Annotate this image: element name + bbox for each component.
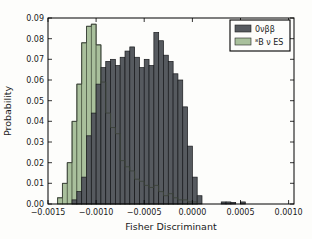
y-tick-label: 0.08 — [26, 35, 44, 44]
histogram-bar — [154, 32, 159, 204]
histogram-bar — [163, 55, 168, 204]
histogram-bar — [183, 107, 188, 204]
x-tick-label: −0.0005 — [127, 208, 162, 217]
histogram-bar — [77, 84, 82, 204]
legend-swatch-0nubb — [235, 25, 251, 32]
legend-label-8b-nu-es: ⁸B ν ES — [255, 38, 283, 47]
y-tick-label: 0.02 — [26, 159, 44, 168]
histogram-bar — [139, 68, 144, 204]
histogram-plot: −0.0015−0.0010−0.00050.00000.00050.00100… — [0, 0, 312, 239]
histogram-bar — [77, 192, 82, 204]
histogram-bar — [72, 121, 77, 204]
histogram-bar — [67, 163, 72, 204]
histogram-bar — [96, 84, 101, 204]
x-tick-label: −0.0015 — [31, 208, 66, 217]
histogram-bar — [101, 68, 106, 204]
x-tick-label: −0.0010 — [79, 208, 114, 217]
x-tick-label: 0.0000 — [178, 208, 206, 217]
histogram-bar — [159, 41, 164, 204]
chart-figure: −0.0015−0.0010−0.00050.00000.00050.00100… — [0, 0, 312, 239]
y-tick-label: 0.07 — [26, 55, 44, 64]
histogram-bar — [106, 61, 111, 204]
y-tick-label: 0.05 — [26, 97, 44, 106]
histogram-bar — [87, 136, 92, 204]
histogram-bar — [197, 196, 202, 204]
x-axis-label: Fisher Discriminant — [125, 221, 217, 232]
histogram-bar — [135, 57, 140, 204]
histogram-bar — [58, 198, 63, 204]
histogram-bar — [111, 59, 116, 204]
histogram-bar — [188, 146, 193, 204]
y-axis-label: Probability — [2, 86, 13, 137]
histogram-bar — [72, 200, 77, 204]
histogram-bar — [120, 57, 125, 204]
histogram-bar — [130, 47, 135, 204]
histogram-bar — [173, 74, 178, 204]
x-tick-label: 0.0005 — [227, 208, 255, 217]
y-tick-label: 0.01 — [26, 179, 44, 188]
legend-label-0nubb: 0νββ — [255, 25, 275, 34]
histogram-bar — [62, 183, 67, 204]
y-tick-label: 0.03 — [26, 138, 44, 147]
histogram-bar — [192, 177, 197, 204]
histogram-bar — [82, 177, 87, 204]
y-tick-label: 0.09 — [26, 14, 44, 23]
histogram-bar — [178, 80, 183, 204]
histogram-bar — [125, 51, 130, 204]
histogram-bar — [144, 59, 149, 204]
x-tick-label: 0.0010 — [275, 208, 303, 217]
y-tick-label: 0.06 — [26, 76, 44, 85]
histogram-bar — [91, 113, 96, 204]
legend-swatch-8b-nu-es — [235, 38, 251, 45]
histogram-bar — [149, 66, 154, 204]
histogram-bar — [115, 66, 120, 204]
histogram-bar — [168, 61, 173, 204]
y-tick-label: 0.00 — [26, 200, 44, 209]
y-tick-label: 0.04 — [26, 117, 44, 126]
